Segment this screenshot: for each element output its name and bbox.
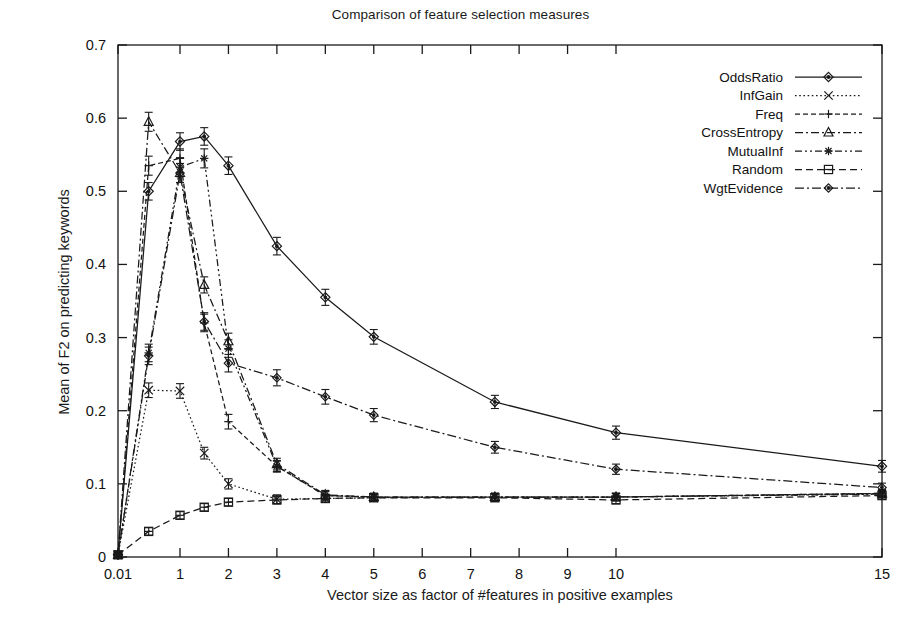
legend-label-oddsratio: OddsRatio bbox=[719, 70, 783, 85]
plot-area: 00.10.20.30.40.50.60.7 0.011234567891015… bbox=[0, 0, 921, 627]
y-tick-label: 0.5 bbox=[86, 183, 106, 199]
data-point bbox=[200, 154, 208, 162]
x-axis-title: Vector size as factor of #features in po… bbox=[118, 587, 882, 603]
series-line bbox=[118, 158, 882, 554]
series-crossentropy bbox=[114, 112, 887, 558]
legend-label-mutualinf: MutualInf bbox=[727, 144, 783, 159]
x-tick-label: 2 bbox=[224, 566, 232, 582]
data-point bbox=[273, 462, 281, 470]
y-tick-label: 0.4 bbox=[86, 256, 106, 272]
x-tick-label: 7 bbox=[467, 566, 475, 582]
legend-label-random: Random bbox=[732, 162, 783, 177]
legend-label-crossentropy: CrossEntropy bbox=[701, 125, 783, 140]
data-point bbox=[224, 344, 232, 352]
legend-label-wgtevidence: WgtEvidence bbox=[703, 181, 783, 196]
y-tick-label: 0.7 bbox=[86, 37, 106, 53]
x-tick-label: 8 bbox=[515, 566, 523, 582]
legend: OddsRatioInfGainFreqCrossEntropyMutualIn… bbox=[701, 70, 862, 196]
data-series-group bbox=[113, 112, 886, 559]
legend-label-freq: Freq bbox=[755, 107, 783, 122]
x-tick-label: 1 bbox=[176, 566, 184, 582]
data-point bbox=[224, 417, 232, 425]
x-tick-label: 0.01 bbox=[104, 566, 132, 582]
y-tick-label: 0.2 bbox=[86, 403, 106, 419]
x-tick-label: 6 bbox=[418, 566, 426, 582]
legend-label-infgain: InfGain bbox=[739, 88, 783, 103]
y-axis-title: Mean of F2 on predicting keywords bbox=[56, 92, 72, 512]
x-tick-label: 10 bbox=[608, 566, 624, 582]
y-tick-label: 0 bbox=[98, 549, 106, 565]
series-random bbox=[114, 491, 886, 558]
legend-marker bbox=[824, 110, 832, 118]
chart-container: Comparison of feature selection measures… bbox=[0, 0, 921, 627]
series-line bbox=[118, 390, 882, 555]
x-tick-label: 9 bbox=[564, 566, 572, 582]
y-tick-label: 0.3 bbox=[86, 330, 106, 346]
y-tick-label: 0.6 bbox=[86, 110, 106, 126]
x-tick-label: 15 bbox=[874, 566, 890, 582]
series-wgtevidence bbox=[114, 163, 886, 559]
legend-marker bbox=[824, 128, 833, 137]
x-tick-label: 3 bbox=[273, 566, 281, 582]
x-tick-label: 5 bbox=[370, 566, 378, 582]
series-infgain bbox=[114, 383, 886, 559]
legend-marker bbox=[824, 165, 832, 173]
legend-marker bbox=[824, 147, 832, 155]
series-line bbox=[118, 136, 882, 554]
x-tick-label: 4 bbox=[321, 566, 329, 582]
y-tick-label: 0.1 bbox=[86, 476, 106, 492]
